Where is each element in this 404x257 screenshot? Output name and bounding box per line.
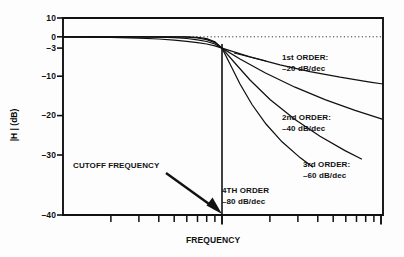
y-tick-label-10: 10	[34, 13, 56, 23]
curve-order-1	[63, 37, 383, 84]
cutoff-arrow	[166, 173, 222, 214]
cutoff-frequency-annotation: CUTOFF FREQUENCY	[73, 161, 159, 172]
filter-response-figure: 10 0 –3 –10 –20 –30 –40 |H | (dB) FREQUE…	[0, 0, 404, 257]
order-2-annotation-slope: –40 dB/dec	[282, 124, 325, 135]
leader-line-order-1	[234, 53, 266, 61]
y-tick-label-minus-30: –30	[34, 150, 56, 160]
order-4-annotation-slope: –80 dB/dec	[222, 197, 265, 208]
curve-order-4	[63, 37, 313, 168]
y-tick-label-minus-20: –20	[34, 110, 56, 120]
order-3-annotation-title: 3rd ORDER:	[303, 160, 350, 171]
y-axis-title-wrap: |H | (dB)	[4, 92, 18, 162]
x-axis-title: FREQUENCY	[186, 235, 240, 245]
order-2-annotation-title: 2nd ORDER:	[282, 113, 331, 124]
order-3-annotation-slope: –60 dB/dec	[303, 171, 346, 182]
chart-canvas	[0, 0, 404, 257]
response-curves	[63, 37, 383, 168]
y-tick-label-0: 0	[34, 32, 56, 42]
order-4-annotation-title: 4TH ORDER	[222, 186, 269, 197]
y-axis-title: |H | (dB)	[9, 94, 19, 156]
order-1-annotation-title: 1st ORDER:	[282, 53, 328, 64]
order-1-annotation-slope: –20 dB/dec	[282, 64, 325, 75]
y-tick-label-minus-10: –10	[34, 71, 56, 81]
y-tick-label-minus-3: –3	[34, 43, 56, 53]
y-tick-label-minus-40: –40	[34, 210, 56, 220]
x-axis-ticks	[111, 215, 381, 225]
